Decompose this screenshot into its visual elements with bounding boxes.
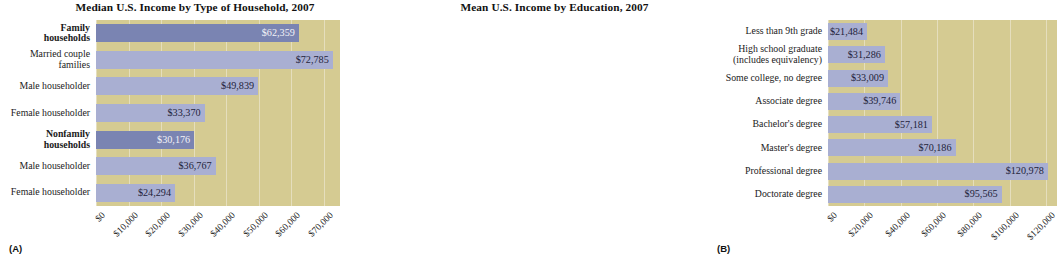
bar-value-label: $24,294 <box>96 188 171 198</box>
category-label-line: Some college, no degree <box>354 73 822 84</box>
x-tick-label: $80,000 <box>956 210 985 239</box>
category-label: Familyhouseholds <box>0 23 90 44</box>
gridline <box>291 20 292 206</box>
category-label-line: Associate degree <box>354 96 822 107</box>
bar-value-label: $30,176 <box>96 135 190 145</box>
category-label-line: Male householder <box>0 81 90 92</box>
category-label: Professional degree <box>354 166 822 177</box>
x-tick-label: $10,000 <box>111 210 140 239</box>
category-label-line: Female householder <box>0 108 90 119</box>
x-tick-label: $50,000 <box>241 210 270 239</box>
x-tick-label: $20,000 <box>847 210 876 239</box>
category-label: Female householder <box>0 108 90 119</box>
bar-value-label: $49,839 <box>96 81 254 91</box>
category-label: Female householder <box>0 187 90 198</box>
bar-value-label: $62,359 <box>96 28 295 38</box>
category-label-line: Doctorate degree <box>354 189 822 200</box>
category-label-line: households <box>0 33 90 44</box>
panel-b-mean-income: Mean U.S. Income by Education, 2007 $21,… <box>354 0 707 264</box>
x-tick-label: $40,000 <box>883 210 912 239</box>
panel-a-median-income: Median U.S. Income by Type of Household,… <box>0 0 354 264</box>
x-tick-label: $120,000 <box>1025 210 1057 242</box>
bar-value-label: $72,785 <box>96 55 329 65</box>
category-label-line: Nonfamily <box>0 129 90 140</box>
category-label: Associate degree <box>354 96 822 107</box>
plot-area-a: $62,359$72,785$49,839$33,370$30,176$36,7… <box>96 20 340 206</box>
bar-value-label: $33,009 <box>828 73 884 83</box>
x-tick-label: $0 <box>93 210 107 224</box>
category-label-line: Master's degree <box>354 143 822 154</box>
category-label-line: Male householder <box>0 161 90 172</box>
chart-title-a: Median U.S. Income by Type of Household,… <box>0 1 354 13</box>
x-tick-label: $30,000 <box>176 210 205 239</box>
chart-title-b: Mean U.S. Income by Education, 2007 <box>354 1 707 13</box>
bar-value-label: $70,186 <box>828 143 952 153</box>
bar-value-label: $120,978 <box>828 166 1044 176</box>
bar-value-label: $36,767 <box>96 161 212 171</box>
category-label-line: (includes equivalency) <box>354 55 822 66</box>
category-label-line: Female householder <box>0 187 90 198</box>
category-label-line: Less than 9th grade <box>354 26 822 37</box>
x-tick-label: $40,000 <box>209 210 238 239</box>
plot-area-b: $21,484$31,286$33,009$39,746$57,181$70,1… <box>828 20 1057 206</box>
x-tick-label: $100,000 <box>989 210 1021 242</box>
category-label: Bachelor's degree <box>354 119 822 130</box>
x-tick-label: $60,000 <box>274 210 303 239</box>
category-label: Some college, no degree <box>354 73 822 84</box>
bar-value-label: $95,565 <box>828 189 998 199</box>
x-tick-label: $0 <box>825 210 839 224</box>
category-label-line: families <box>0 60 90 71</box>
category-label: High school graduate(includes equivalenc… <box>354 44 822 65</box>
category-label: Married couplefamilies <box>0 49 90 70</box>
category-label: Nonfamilyhouseholds <box>0 129 90 150</box>
gridline <box>226 20 227 206</box>
category-label-line: Bachelor's degree <box>354 119 822 130</box>
gridline <box>259 20 260 206</box>
x-tick-label: $60,000 <box>920 210 949 239</box>
category-label: Master's degree <box>354 143 822 154</box>
category-label: Male householder <box>0 81 90 92</box>
x-tick-label: $20,000 <box>144 210 173 239</box>
category-label-line: households <box>0 140 90 151</box>
panel-letter-a: (A) <box>9 243 22 254</box>
bar-value-label: $31,286 <box>828 50 881 60</box>
panel-letter-b: (B) <box>717 243 730 254</box>
bar-value-label: $39,746 <box>828 96 896 106</box>
category-label: Doctorate degree <box>354 189 822 200</box>
category-label: Male householder <box>0 161 90 172</box>
bar-value-label: $57,181 <box>828 120 928 130</box>
gridline <box>324 20 325 206</box>
x-tick-label: $70,000 <box>306 210 335 239</box>
category-label: Less than 9th grade <box>354 26 822 37</box>
bar-value-label: $21,484 <box>828 27 863 37</box>
bar-value-label: $33,370 <box>96 108 201 118</box>
category-label-line: Professional degree <box>354 166 822 177</box>
